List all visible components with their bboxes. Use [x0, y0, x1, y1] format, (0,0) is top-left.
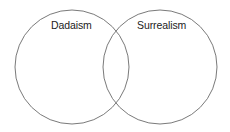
label-surrealism: Surrealism	[137, 19, 186, 31]
label-dadaism: Dadaism	[51, 19, 92, 31]
venn-diagram	[0, 0, 230, 132]
